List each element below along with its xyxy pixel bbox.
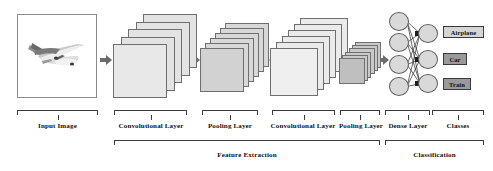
feature-map-card bbox=[113, 44, 167, 98]
feature-map-card bbox=[270, 48, 318, 96]
dense-hidden-node-1 bbox=[389, 33, 409, 52]
class-box-train[interactable]: Train bbox=[443, 78, 471, 90]
caption-conv-layer-1: Convolutional Layer bbox=[104, 122, 198, 130]
class-label-car: Car bbox=[449, 56, 460, 63]
bracket-classes bbox=[432, 110, 484, 115]
dense-output-node-2 bbox=[418, 74, 438, 93]
class-box-car[interactable]: Car bbox=[443, 53, 467, 65]
caption-feature-extraction: Feature Extraction bbox=[114, 151, 380, 159]
bracket-feature-extraction bbox=[114, 140, 380, 145]
cnn-architecture-diagram: Airplane Car Train Input Image Convoluti… bbox=[0, 0, 493, 171]
caption-dense-layer: Dense Layer bbox=[382, 122, 434, 130]
class-label-airplane: Airplane bbox=[451, 29, 476, 36]
bracket-conv-layer-2 bbox=[272, 110, 335, 115]
dense-output-node-0 bbox=[418, 24, 438, 43]
caption-classes: Classes bbox=[434, 122, 482, 130]
bracket-dense-layer bbox=[385, 110, 430, 115]
dense-hidden-node-0 bbox=[389, 12, 409, 31]
class-box-airplane[interactable]: Airplane bbox=[443, 26, 484, 38]
class-label-train: Train bbox=[449, 81, 465, 88]
feature-map-card bbox=[200, 48, 244, 92]
bracket-classification bbox=[385, 140, 484, 145]
bracket-pool-layer-2 bbox=[340, 110, 380, 115]
caption-classification: Classification bbox=[385, 151, 484, 159]
dense-hidden-node-2 bbox=[389, 55, 409, 74]
caption-input-image: Input Image bbox=[17, 122, 98, 130]
dense-hidden-node-3 bbox=[389, 77, 409, 96]
dense-output-node-1 bbox=[418, 50, 438, 69]
feature-map-card bbox=[339, 58, 365, 84]
bracket-input-image bbox=[17, 110, 98, 115]
bracket-pool-layer-1 bbox=[202, 110, 258, 115]
bracket-conv-layer-1 bbox=[114, 110, 187, 115]
caption-pool-layer-1: Pooling Layer bbox=[196, 122, 264, 130]
